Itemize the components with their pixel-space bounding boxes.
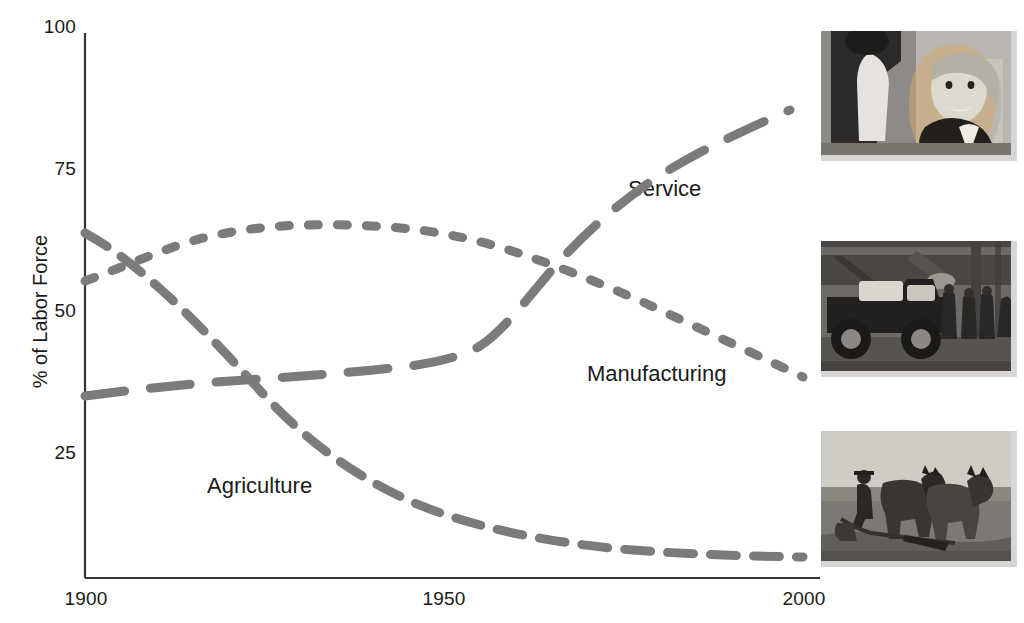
- manufacturing-photo-graphic: [821, 241, 1011, 371]
- service-photo-graphic: [821, 31, 1011, 155]
- manufacturing-photo: [818, 238, 1020, 380]
- axis-lines: [85, 33, 820, 578]
- agriculture-photo: [818, 428, 1020, 570]
- series-line-agriculture: [85, 233, 803, 557]
- series-line-manufacturing: [85, 225, 803, 377]
- series-line-service: [85, 110, 790, 396]
- agriculture-photo-graphic: [821, 431, 1011, 561]
- service-photo: [818, 28, 1020, 164]
- labor-force-chart: % of Labor Force 100 75 50 25 1900 1950 …: [0, 0, 1024, 623]
